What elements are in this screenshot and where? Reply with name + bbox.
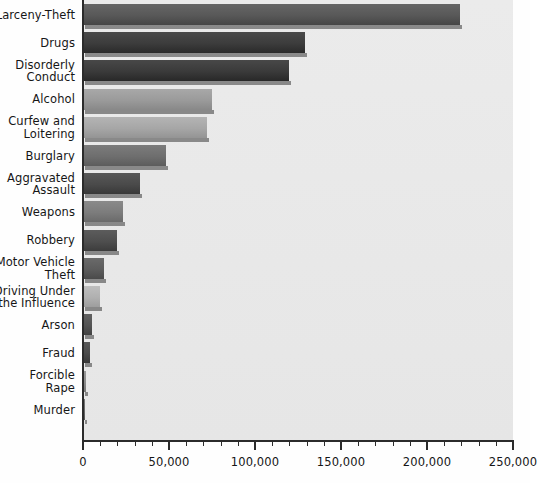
y-axis-label: Robbery: [0, 234, 75, 247]
bar-fill: [83, 32, 305, 53]
bar: [83, 230, 117, 251]
x-axis-major-tick: [82, 441, 84, 450]
x-axis-major-tick: [254, 441, 256, 450]
y-axis-label-line: Fraud: [0, 347, 75, 360]
x-axis-minor-tick: [289, 441, 290, 446]
y-axis-label-line: Weapons: [0, 206, 75, 219]
y-axis-label-line: Alcohol: [0, 93, 75, 106]
y-axis-label: Alcohol: [0, 93, 75, 106]
bar: [83, 201, 123, 222]
y-axis-label: Larceny-Theft: [0, 9, 75, 22]
y-axis-label: DisorderlyConduct: [0, 59, 75, 84]
x-axis-tick-label: 250,000: [489, 455, 537, 469]
y-axis-label-line: Assault: [0, 184, 75, 197]
bar-fill: [83, 89, 212, 110]
y-axis-label-line: Loitering: [0, 128, 75, 141]
x-axis-tick-label: 100,000: [231, 455, 279, 469]
x-axis-minor-tick: [358, 441, 359, 446]
y-axis-label: Drugs: [0, 37, 75, 50]
x-axis-minor-tick: [461, 441, 462, 446]
bar-row: [83, 114, 513, 142]
y-axis-label-line: Forcible: [0, 369, 75, 382]
bar-fill: [83, 145, 166, 166]
bar: [83, 314, 92, 335]
bar-fill: [83, 173, 140, 194]
bar-row: [83, 1, 513, 29]
y-axis-label-line: Robbery: [0, 234, 75, 247]
bar-fill: [83, 4, 460, 25]
x-axis-minor-tick: [479, 441, 480, 446]
y-axis-label: Weapons: [0, 206, 75, 219]
x-axis-minor-tick: [410, 441, 411, 446]
y-axis-label: Motor VehicleTheft: [0, 256, 75, 281]
y-axis-label: ForcibleRape: [0, 369, 75, 394]
y-axis-label-line: Rape: [0, 382, 75, 395]
x-axis-tick-label: 200,000: [403, 455, 451, 469]
x-axis-minor-tick: [496, 441, 497, 446]
bar: [83, 117, 207, 138]
y-axis-label-line: Conduct: [0, 71, 75, 84]
y-axis-label-line: Curfew and: [0, 115, 75, 128]
y-axis-label-line: Burglary: [0, 150, 75, 163]
bar: [83, 173, 140, 194]
bar-row: [83, 57, 513, 85]
bar: [83, 145, 166, 166]
x-axis-minor-tick: [135, 441, 136, 446]
x-axis-minor-tick: [100, 441, 101, 446]
y-axis-label-line: Drugs: [0, 37, 75, 50]
x-axis-minor-tick: [221, 441, 222, 446]
bar-row: [83, 368, 513, 396]
bar: [83, 60, 289, 81]
x-axis-major-tick: [340, 441, 342, 450]
bar-fill: [83, 286, 100, 307]
y-axis-label: Arson: [0, 319, 75, 332]
bar-shadow: [85, 420, 87, 424]
x-axis-minor-tick: [272, 441, 273, 446]
x-axis-minor-tick: [117, 441, 118, 446]
bar: [83, 258, 104, 279]
x-axis-tick-label: 0: [79, 455, 86, 469]
x-axis-tick-label: 150,000: [317, 455, 365, 469]
bar-row: [83, 198, 513, 226]
x-axis-minor-tick: [375, 441, 376, 446]
y-axis-label: Driving Underthe Influence: [0, 285, 75, 310]
bar-row: [83, 255, 513, 283]
bar-fill: [83, 314, 92, 335]
bar-row: [83, 86, 513, 114]
y-axis-label: Curfew andLoitering: [0, 115, 75, 140]
bar-fill: [83, 258, 104, 279]
x-axis-line: [82, 440, 514, 442]
x-axis-minor-tick: [152, 441, 153, 446]
bar: [83, 342, 90, 363]
x-axis-major-tick: [426, 441, 428, 450]
y-axis-label: Murder: [0, 404, 75, 417]
x-axis-minor-tick: [324, 441, 325, 446]
y-axis-label-line: Motor Vehicle: [0, 256, 75, 269]
y-axis-line: [82, 0, 84, 441]
bar-fill: [83, 117, 207, 138]
bar-row: [83, 283, 513, 311]
x-axis-major-tick: [512, 441, 514, 450]
y-axis-label: AggravatedAssault: [0, 172, 75, 197]
bar: [83, 286, 100, 307]
bar: [83, 4, 460, 25]
x-axis-major-tick: [168, 441, 170, 450]
bar-row: [83, 29, 513, 57]
x-axis-minor-tick: [444, 441, 445, 446]
bar-row: [83, 142, 513, 170]
x-axis-tick-label: 50,000: [149, 455, 190, 469]
bar-row: [83, 339, 513, 367]
bar-row: [83, 170, 513, 198]
bar-fill: [83, 230, 117, 251]
y-axis-label: Burglary: [0, 150, 75, 163]
bar-fill: [83, 342, 90, 363]
x-axis-minor-tick: [186, 441, 187, 446]
y-axis-label-line: Theft: [0, 269, 75, 282]
y-axis-label: Fraud: [0, 347, 75, 360]
y-axis-label-line: Murder: [0, 404, 75, 417]
bar-fill: [83, 60, 289, 81]
x-axis-minor-tick: [393, 441, 394, 446]
x-axis-minor-tick: [238, 441, 239, 446]
bar-row: [83, 396, 513, 424]
